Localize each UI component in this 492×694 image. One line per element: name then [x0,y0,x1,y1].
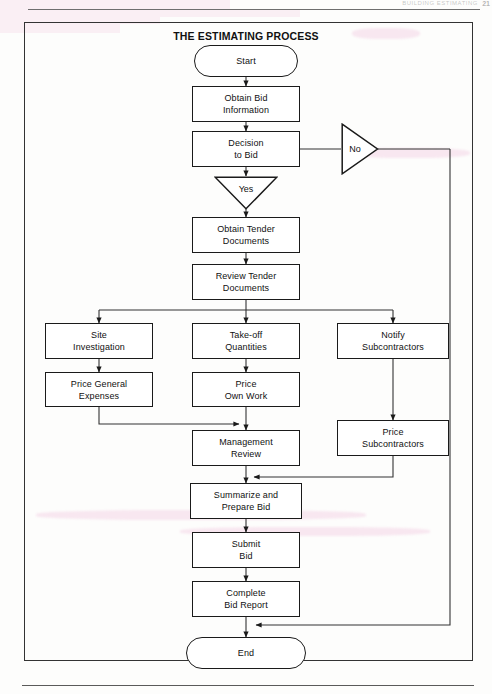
node-obtain-bid-information-line-2: Information [223,104,269,116]
node-site-investigation-line-1: Site [91,329,107,341]
node-start[interactable]: Start [194,45,298,77]
node-take-off-quantities[interactable]: Take-off Quantities [192,323,300,359]
node-price-subcontractors[interactable]: Price Subcontractors [337,420,449,456]
node-decision-to-bid-line-1: Decision [228,137,263,149]
page-header-rule [28,9,480,10]
node-obtain-bid-information-line-1: Obtain Bid [224,92,267,104]
node-no-branch[interactable]: No [341,123,379,175]
node-no-branch-label: No [349,144,361,154]
node-yes-branch[interactable]: Yes [214,176,278,210]
node-notify-subcontractors-line-2: Subcontractors [362,341,424,353]
node-take-off-quantities-line-2: Quantities [225,341,267,353]
node-obtain-tender-documents-line-1: Obtain Tender [217,223,275,235]
node-complete-bid-report-line-2: Bid Report [224,599,268,611]
node-obtain-bid-information[interactable]: Obtain Bid Information [192,86,300,122]
node-end-line-1: End [238,647,254,659]
page-number: 21 [482,0,490,7]
page-title: THE ESTIMATING PROCESS [0,30,492,42]
node-obtain-tender-documents-line-2: Documents [223,235,269,247]
node-submit-bid-line-2: Bid [239,550,252,562]
node-take-off-quantities-line-1: Take-off [230,329,263,341]
node-yes-branch-label: Yes [239,184,254,194]
node-summarize-and-prepare-bid[interactable]: Summarize and Prepare Bid [190,483,302,519]
node-price-subcontractors-line-2: Subcontractors [362,438,424,450]
node-submit-bid[interactable]: Submit Bid [192,532,300,568]
node-price-subcontractors-line-1: Price [382,426,403,438]
node-decision-to-bid-line-2: to Bid [234,149,258,161]
node-price-own-work[interactable]: Price Own Work [192,372,300,407]
node-price-general-expenses-line-2: Expenses [79,390,119,402]
page-running-head: BUILDING ESTIMATING [402,0,478,6]
node-submit-bid-line-1: Submit [232,538,261,550]
highlighter-smudge [0,0,230,9]
node-site-investigation-line-2: Investigation [73,341,125,353]
node-price-own-work-line-2: Own Work [225,390,268,402]
node-price-own-work-line-1: Price [235,378,256,390]
node-review-tender-documents-line-1: Review Tender [216,270,277,282]
node-site-investigation[interactable]: Site Investigation [45,323,153,359]
node-management-review-line-1: Management [219,436,273,448]
node-notify-subcontractors[interactable]: Notify Subcontractors [337,323,449,359]
page-footer-rule [22,685,474,686]
node-price-general-expenses-line-1: Price General [71,378,127,390]
node-notify-subcontractors-line-1: Notify [381,329,405,341]
node-management-review[interactable]: Management Review [192,430,300,466]
node-review-tender-documents[interactable]: Review Tender Documents [192,264,300,300]
node-summarize-and-prepare-bid-line-1: Summarize and [214,489,278,501]
scanned-page: BUILDING ESTIMATING 21 THE ESTIMATING PR… [0,0,492,694]
node-review-tender-documents-line-2: Documents [223,282,269,294]
highlighter-smudge [0,9,300,17]
node-decision-to-bid[interactable]: Decision to Bid [192,131,300,167]
node-management-review-line-2: Review [231,448,261,460]
node-complete-bid-report-line-1: Complete [226,587,265,599]
node-end[interactable]: End [186,637,306,669]
node-summarize-and-prepare-bid-line-2: Prepare Bid [222,501,271,513]
node-complete-bid-report[interactable]: Complete Bid Report [192,581,300,617]
node-price-general-expenses[interactable]: Price General Expenses [45,372,153,407]
node-obtain-tender-documents[interactable]: Obtain Tender Documents [192,217,300,253]
node-start-line-1: Start [236,55,256,67]
